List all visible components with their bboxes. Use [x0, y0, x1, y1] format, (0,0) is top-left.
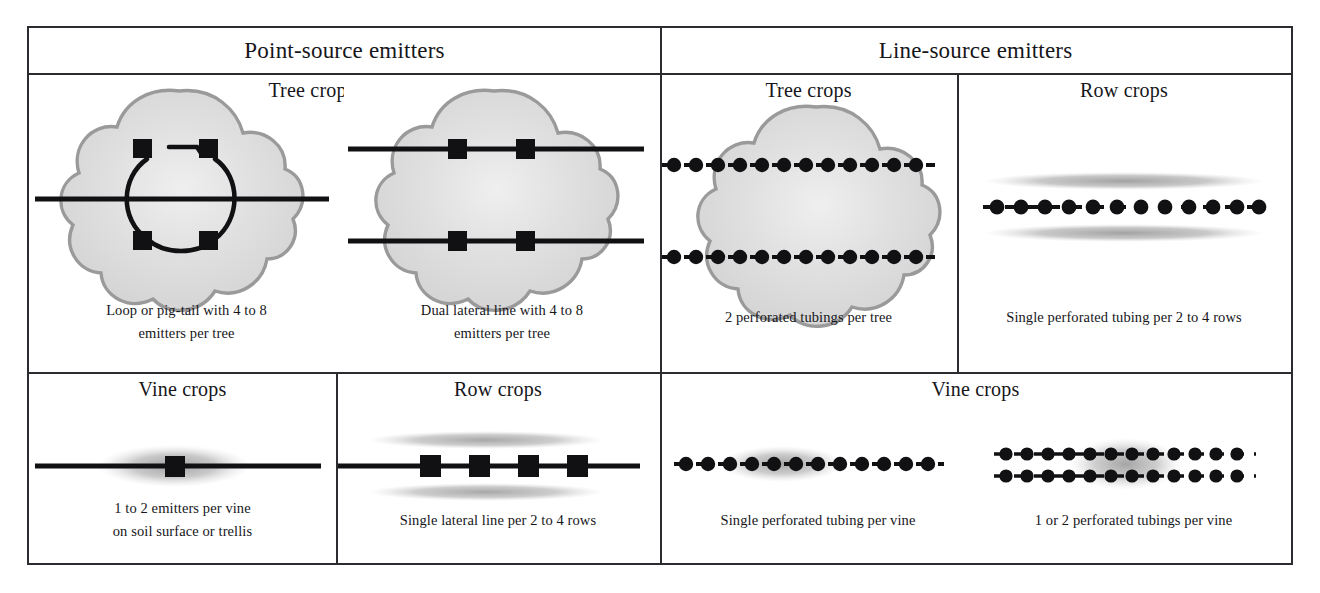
- cell-caption-ls-tree: 2 perforated tubings per tree: [664, 306, 953, 328]
- wetted-soil-strip: [984, 224, 1264, 242]
- header-point-source-label: Point-source emitters: [244, 38, 444, 64]
- cell-caption-ps-row: Single lateral line per 2 to 4 rows: [340, 509, 656, 531]
- art-ps-row: [336, 372, 660, 565]
- diagram-table: Point-source emitters Line-source emitte…: [27, 26, 1293, 565]
- art-ls-tree: [660, 93, 957, 372]
- tree-canopy-shape: [376, 90, 618, 310]
- emitter-square: [165, 456, 185, 477]
- cell-ls-vine-single: Single perforated tubing per vine: [660, 372, 976, 565]
- wetted-soil-strip: [984, 172, 1264, 190]
- perforated-tubing: [983, 200, 1269, 215]
- wetted-soil-strip: [368, 483, 604, 501]
- cell-caption-ps-tree-loop-line1: Loop or pig-tail with 4 to 8: [33, 299, 340, 321]
- emitter-square: [199, 139, 218, 158]
- art-ls-vine-single: [660, 372, 976, 565]
- emitter-square: [133, 231, 152, 250]
- cell-caption-ls-row: Single perforated tubing per 2 to 4 rows: [961, 306, 1287, 328]
- figure-canvas: Point-source emitters Line-source emitte…: [0, 0, 1320, 593]
- cell-ps-row: Row crops: [336, 372, 660, 565]
- emitter-square: [518, 455, 539, 477]
- cell-ls-tree: Tree crops: [660, 73, 957, 372]
- cell-caption-ps-tree-dual-line1: Dual lateral line with 4 to 8: [348, 299, 656, 321]
- cell-caption-ps-tree-dual-line2: emitters per tree: [348, 322, 656, 344]
- header-line-source: Line-source emitters: [660, 28, 1291, 73]
- cell-caption-ps-vine-line2: on soil surface or trellis: [33, 520, 332, 542]
- tree-canopy-shape: [698, 106, 940, 326]
- emitter-square: [448, 139, 467, 159]
- emitter-square: [567, 455, 588, 477]
- wetted-soil-bulb: [720, 446, 844, 482]
- cell-caption-ps-tree-loop-line2: emitters per tree: [33, 322, 340, 344]
- emitter-square: [469, 455, 490, 477]
- emitter-square: [516, 139, 535, 159]
- cell-caption-ls-vine-dual: 1 or 2 perforated tubings per vine: [980, 509, 1287, 531]
- wetted-soil-bulb: [1070, 438, 1182, 490]
- header-point-source: Point-source emitters: [29, 28, 660, 73]
- cell-caption-ls-vine-single: Single perforated tubing per vine: [664, 509, 972, 531]
- cell-ps-tree-dual: Dual lateral line with 4 to 8 emitters p…: [344, 73, 660, 372]
- cell-ps-vine: Vine crops 1 to 2 emitters per vine: [29, 372, 336, 565]
- emitter-square: [448, 231, 467, 251]
- cell-caption-ps-vine-line1: 1 to 2 emitters per vine: [33, 497, 332, 519]
- cell-ls-vine-dual: 1 or 2 perforated tubings per vine: [976, 372, 1291, 565]
- emitter-square: [516, 231, 535, 251]
- emitter-square: [199, 231, 218, 250]
- emitter-square: [133, 139, 152, 158]
- cell-ps-tree-loop: Tree crops: [29, 73, 344, 372]
- header-line-source-label: Line-source emitters: [879, 38, 1073, 64]
- art-ls-vine-dual: [976, 372, 1291, 565]
- emitter-square: [420, 455, 441, 477]
- wetted-soil-strip: [368, 431, 604, 449]
- cell-ls-row: Row crops: [957, 73, 1291, 372]
